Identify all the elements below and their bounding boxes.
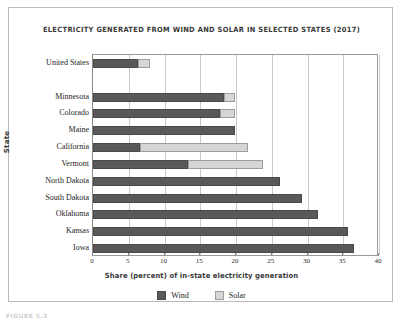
- y-axis-label: North Dakota: [9, 176, 89, 185]
- bar-segment-solar[interactable]: [138, 59, 150, 68]
- x-axis-label: 10: [152, 257, 176, 265]
- x-axis-tickmark: [235, 253, 236, 256]
- legend-label: Wind: [171, 291, 188, 300]
- bar-segment-wind[interactable]: [93, 160, 188, 169]
- bar-row[interactable]: [93, 109, 379, 118]
- bar-row[interactable]: [93, 194, 379, 203]
- bar-segment-solar[interactable]: [220, 109, 235, 118]
- x-axis-label: 40: [366, 257, 390, 265]
- bar-segment-wind[interactable]: [93, 59, 138, 68]
- y-axis-label: Oklahoma: [9, 209, 89, 218]
- gridline: [236, 55, 237, 255]
- bar-segment-wind[interactable]: [93, 194, 302, 203]
- x-axis-label: 25: [259, 257, 283, 265]
- x-axis-label: 35: [330, 257, 354, 265]
- y-axis-label: Colorado: [9, 108, 89, 117]
- gridline: [165, 55, 166, 255]
- y-axis-label: Kansas: [9, 226, 89, 235]
- bar-segment-wind[interactable]: [93, 126, 235, 135]
- gridline: [129, 55, 130, 255]
- chart-legend: WindSolar: [9, 291, 394, 300]
- y-axis-tick-labels: United StatesMinnesotaColoradoMaineCalif…: [9, 54, 89, 256]
- y-axis-label: Maine: [9, 125, 89, 134]
- x-axis-label: 20: [223, 257, 247, 265]
- bar-row[interactable]: [93, 126, 379, 135]
- bar-segment-wind[interactable]: [93, 109, 220, 118]
- x-axis-label: 30: [295, 257, 319, 265]
- legend-entry[interactable]: Solar: [215, 291, 246, 300]
- y-axis-label: California: [9, 142, 89, 151]
- gridline: [308, 55, 309, 255]
- x-axis-label: 15: [187, 257, 211, 265]
- x-axis-label: 5: [116, 257, 140, 265]
- y-axis-label: Minnesota: [9, 92, 89, 101]
- x-axis-title: Share (percent) of in-state electricity …: [19, 271, 385, 280]
- figure-caption: FIGURE 5.3: [6, 312, 48, 320]
- bar-row[interactable]: [93, 143, 379, 152]
- bar-segment-solar[interactable]: [140, 143, 248, 152]
- x-axis-tickmark: [164, 253, 165, 256]
- bar-segment-wind[interactable]: [93, 210, 318, 219]
- x-axis-tickmark: [92, 253, 93, 256]
- legend-swatch-wind: [157, 291, 166, 300]
- legend-label: Solar: [229, 291, 246, 300]
- y-axis-label: United States: [9, 58, 89, 67]
- x-axis-label: 0: [80, 257, 104, 265]
- bar-segment-solar[interactable]: [188, 160, 263, 169]
- gridline: [343, 55, 344, 255]
- bar-row[interactable]: [93, 210, 379, 219]
- bar-row[interactable]: [93, 177, 379, 186]
- x-axis-tickmark: [128, 253, 129, 256]
- figure-frame: ELECTRICITY GENERATED FROM WIND AND SOLA…: [8, 7, 393, 302]
- x-axis-tickmark: [271, 253, 272, 256]
- gridline: [379, 55, 380, 255]
- bar-row[interactable]: [93, 160, 379, 169]
- gridline: [272, 55, 273, 255]
- plot-area: [92, 54, 378, 256]
- bar-row[interactable]: [93, 227, 379, 236]
- bar-row[interactable]: [93, 93, 379, 102]
- bar-row[interactable]: [93, 59, 379, 68]
- x-axis-tickmark: [199, 253, 200, 256]
- bar-segment-solar[interactable]: [224, 93, 235, 102]
- gridline: [200, 55, 201, 255]
- bar-row[interactable]: [93, 244, 379, 253]
- legend-swatch-solar: [215, 291, 224, 300]
- y-axis-label: Iowa: [9, 243, 89, 252]
- y-axis-label: Vermont: [9, 159, 89, 168]
- bar-segment-wind[interactable]: [93, 177, 280, 186]
- bar-segment-wind[interactable]: [93, 93, 224, 102]
- chart-title: ELECTRICITY GENERATED FROM WIND AND SOLA…: [22, 25, 380, 34]
- bar-segment-wind[interactable]: [93, 143, 140, 152]
- x-axis-tickmark: [378, 253, 379, 256]
- x-axis-tickmark: [342, 253, 343, 256]
- bar-segment-wind[interactable]: [93, 227, 348, 236]
- x-axis-tickmark: [307, 253, 308, 256]
- x-axis-tick-labels: 0510152025303540: [92, 257, 378, 269]
- y-axis-label: South Dakota: [9, 193, 89, 202]
- bar-segment-wind[interactable]: [93, 244, 354, 253]
- legend-entry[interactable]: Wind: [157, 291, 188, 300]
